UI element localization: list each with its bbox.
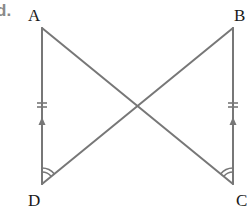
parallel-arrow-icon-bc <box>230 117 237 125</box>
vertex-label-c: C <box>236 191 247 210</box>
vertex-label-a: A <box>28 6 41 25</box>
part-label: d. <box>0 1 11 20</box>
geometry-diagram: d. A B D C <box>0 0 247 218</box>
vertex-label-d: D <box>28 191 40 210</box>
vertex-label-b: B <box>234 6 245 25</box>
parallel-arrow-icon-ad <box>39 117 46 125</box>
